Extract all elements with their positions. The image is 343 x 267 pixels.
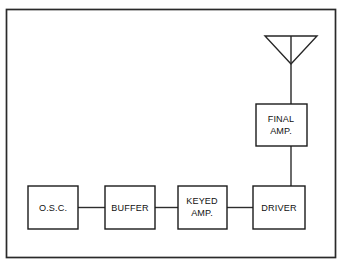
block-buffer[interactable]: BUFFER xyxy=(105,186,155,229)
block-driver-label: DRIVER xyxy=(261,203,297,213)
block-driver[interactable]: DRIVER xyxy=(253,186,305,229)
block-diagram-svg: O.S.C. BUFFER KEYED AMP. DRIVER FINAL AM… xyxy=(0,0,343,267)
block-final-amp-label-line2: AMP. xyxy=(270,126,292,136)
block-keyed-amp[interactable]: KEYED AMP. xyxy=(178,186,227,229)
block-osc[interactable]: O.S.C. xyxy=(28,186,78,229)
block-final-amp[interactable]: FINAL AMP. xyxy=(256,104,307,146)
block-osc-label: O.S.C. xyxy=(39,203,67,213)
block-diagram-canvas: O.S.C. BUFFER KEYED AMP. DRIVER FINAL AM… xyxy=(0,0,343,267)
block-keyed-amp-label-line2: AMP. xyxy=(191,208,213,218)
block-buffer-label: BUFFER xyxy=(111,203,149,213)
block-keyed-amp-label-line1: KEYED xyxy=(186,196,218,206)
block-final-amp-outline xyxy=(256,104,307,146)
block-final-amp-label-line1: FINAL xyxy=(268,114,295,124)
